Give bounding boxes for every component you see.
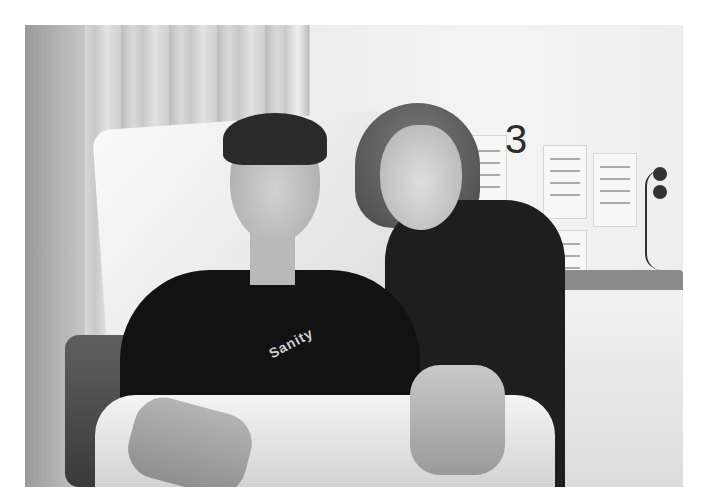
- clasped-hands: [410, 365, 505, 475]
- man-hair: [223, 113, 327, 165]
- wall-socket-icon: [653, 167, 667, 181]
- photograph: 3 Sanity: [25, 25, 683, 487]
- wall-notice: [593, 153, 637, 227]
- bay-number: 3: [505, 117, 527, 162]
- woman-face: [380, 125, 462, 230]
- wall-notice: [543, 145, 587, 219]
- wall-socket-icon: [653, 185, 667, 199]
